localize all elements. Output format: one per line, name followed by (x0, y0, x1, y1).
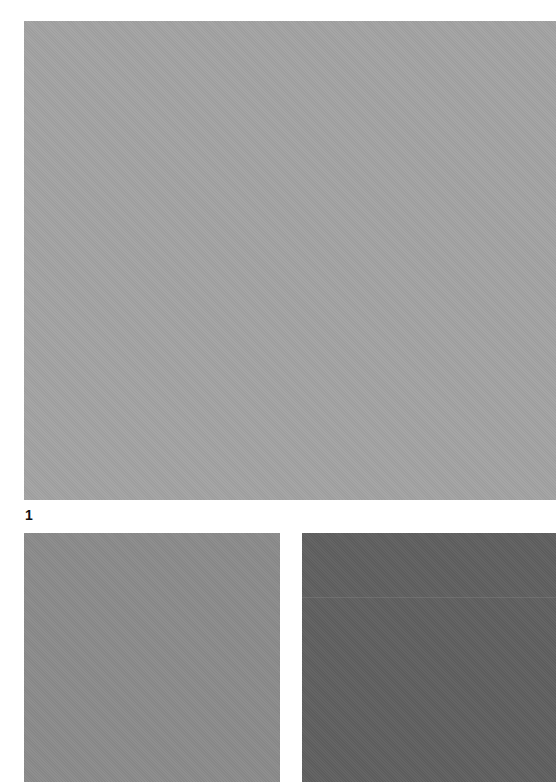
horizontal-line (302, 597, 556, 598)
texture-overlay (24, 21, 556, 500)
gray-swatch-large (24, 21, 556, 500)
gray-swatch-dark (302, 533, 556, 782)
figure-number-label: 1 (25, 507, 33, 523)
gray-swatch-medium (24, 533, 280, 782)
texture-overlay (24, 533, 280, 782)
texture-overlay (302, 533, 556, 782)
